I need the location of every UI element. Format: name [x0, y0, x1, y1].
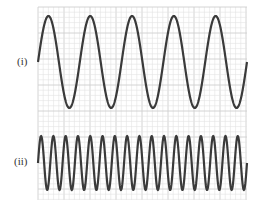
waveform-comparison-figure: (i) (ii) [0, 0, 258, 215]
wave-label-ii: (ii) [14, 155, 27, 167]
wave-label-i: (i) [17, 55, 27, 67]
grid-plot [0, 0, 258, 215]
